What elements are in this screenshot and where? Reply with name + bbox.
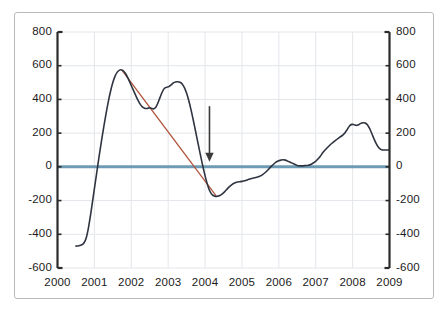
- down-arrow-annotation: [205, 106, 213, 162]
- horizontal-gridlines: [58, 32, 390, 268]
- x-axis-label-2009: 2009: [368, 276, 412, 288]
- y-axis-label-left-0: 0: [8, 159, 52, 171]
- vertical-gridlines: [58, 32, 390, 268]
- axis-spines: [58, 32, 390, 268]
- y-axis-label-right--400: -400: [396, 227, 440, 239]
- y-axis-label-right-0: 0: [396, 159, 440, 171]
- y-axis-label-left-600: 600: [8, 58, 52, 70]
- y-axis-label-left--400: -400: [8, 227, 52, 239]
- axis-ticks: [58, 66, 390, 235]
- y-axis-label-right-200: 200: [396, 126, 440, 138]
- y-axis-label-left-800: 800: [8, 25, 52, 37]
- y-axis-label-right-800: 800: [396, 25, 440, 37]
- y-axis-label-right-400: 400: [396, 92, 440, 104]
- y-axis-label-left-200: 200: [8, 126, 52, 138]
- chart-plot-area: [0, 0, 447, 316]
- y-axis-label-right-600: 600: [396, 58, 440, 70]
- data-series-line: [76, 70, 389, 246]
- y-axis-label-right--600: -600: [396, 261, 440, 273]
- y-axis-label-left--600: -600: [8, 261, 52, 273]
- y-axis-label-left--200: -200: [8, 193, 52, 205]
- y-axis-label-left-400: 400: [8, 92, 52, 104]
- y-axis-label-right--200: -200: [396, 193, 440, 205]
